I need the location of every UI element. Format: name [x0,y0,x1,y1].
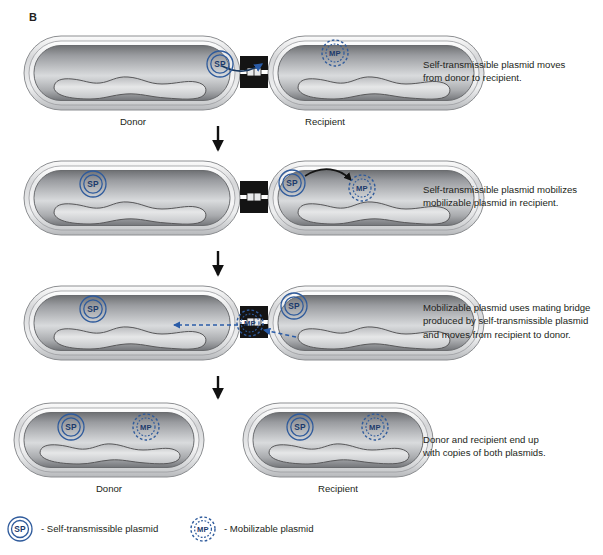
step-1-mating-bridge [240,56,268,88]
step-2-caption-line-1: Self-transmissible plasmid mobilizes [423,183,603,196]
step-1-caption-line-2: from donor to recipient. [423,71,603,84]
legend-mp-text: - Mobilizable plasmid [224,523,314,534]
step-4-recipient-label: Recipient [293,483,383,494]
sp-abbrev-label: SP [286,178,298,188]
legend-sp-icon: SP [8,517,32,541]
step-1-donor-cell [24,36,240,110]
step-2-donor-sp-plasmid: SP [80,171,106,197]
mp-abbrev-label: MP [369,423,381,432]
step-4-donor-cell: SP MP [14,403,204,477]
step-1-cells: SP MP [24,36,484,110]
sp-abbrev-label: SP [87,304,99,314]
legend-mp-icon: MP [191,517,215,541]
step-1-sp-plasmid: SP [207,51,233,77]
step-2-mating-bridge [240,181,268,213]
sp-abbrev-label: SP [294,422,306,432]
step-1-donor-label: Donor [88,116,178,127]
step-2-caption: Self-transmissible plasmid mobilizes mob… [423,183,603,210]
sp-abbrev-label: SP [214,59,226,69]
sp-abbrev-label: SP [87,179,99,189]
step-1-recipient-label: Recipient [280,116,370,127]
step-4-donor-label: Donor [64,483,154,494]
step-3-caption-line-2: produced by self-transmissible plasmid [423,314,603,327]
mp-abbrev-label: MP [140,423,152,432]
step-4-caption-line-1: Donor and recipient end up [423,433,603,446]
mp-abbrev-label: MP [197,525,209,534]
sp-abbrev-label: SP [65,422,77,432]
step-3-recipient-sp-plasmid: SP [281,293,307,319]
step-4-caption-line-2: with copies of both plasmids. [423,446,603,459]
step-4-caption: Donor and recipient end up with copies o… [423,433,603,460]
step-1-caption: Self-transmissible plasmid moves from do… [423,58,603,85]
step-2-caption-line-2: mobilizable plasmid in recipient. [423,196,603,209]
sp-abbrev-label: SP [14,524,26,534]
step-4-cells: SP MP SP [14,403,433,477]
mp-abbrev-label: MP [356,184,368,193]
step-3-caption: Mobilizable plasmid uses mating bridge p… [423,301,603,341]
step-3-cells: SP SP MP [24,286,484,360]
step-4-recipient-sp-plasmid: SP [287,414,313,440]
mp-abbrev-label: MP [329,49,341,58]
step-2-donor-cell [24,161,240,235]
step-4-donor-sp-plasmid: SP [58,414,84,440]
step-2-recipient-sp-plasmid: SP [279,170,305,196]
step-2-cells: SP SP MP [24,161,484,235]
conjugation-figure: B [0,0,603,555]
step-4-recipient-cell: SP MP [243,403,433,477]
sp-abbrev-label: SP [288,301,300,311]
mp-abbrev-label: MP [244,319,256,328]
legend-sp-text: - Self-transmissible plasmid [41,523,158,534]
step-1-caption-line-1: Self-transmissible plasmid moves [423,58,603,71]
step-3-caption-line-1: Mobilizable plasmid uses mating bridge [423,301,603,314]
step-3-caption-line-3: and moves from recipient to donor. [423,328,603,341]
step-3-donor-sp-plasmid: SP [80,296,106,322]
step-3-donor-cell [24,286,240,360]
